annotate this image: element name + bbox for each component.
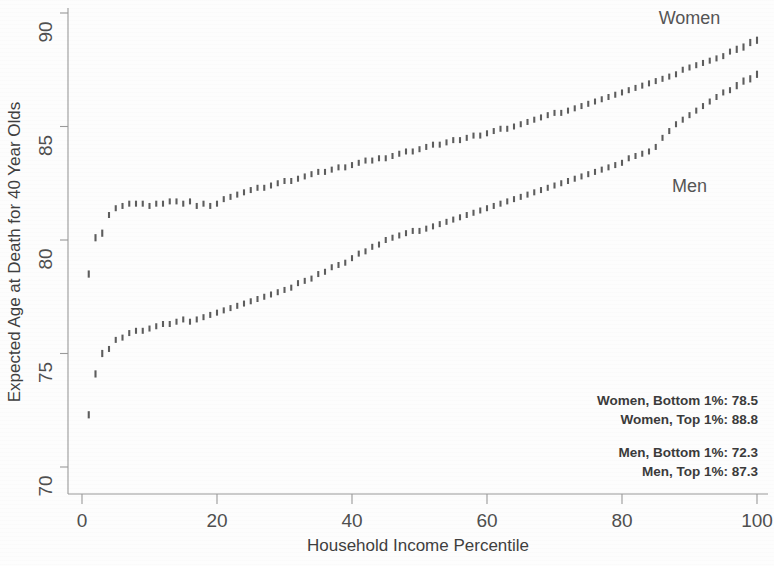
x-axis-ticks: 020406080100: [77, 494, 773, 531]
x-tick-label-100: 100: [741, 510, 773, 531]
series-men-marks: [89, 71, 757, 419]
series-label-women: Women: [659, 8, 721, 28]
chart-canvas: 7075808590 020406080100 Women Men Househ…: [0, 0, 774, 566]
series-women-marks: [89, 37, 757, 278]
annotation-men-bottom: Men, Bottom 1%: 72.3: [618, 445, 758, 460]
x-tick-label-0: 0: [77, 510, 88, 531]
y-axis-ticks: 7075808590: [35, 13, 68, 497]
annotation-block: Women, Bottom 1%: 78.5 Women, Top 1%: 88…: [597, 393, 759, 479]
y-tick-label-90: 90: [35, 21, 56, 42]
annotation-women-top: Women, Top 1%: 88.8: [620, 412, 758, 427]
y-axis-title: Expected Age at Death for 40 Year Olds: [5, 102, 24, 403]
x-tick-label-80: 80: [611, 510, 632, 531]
x-tick-label-20: 20: [206, 510, 227, 531]
y-tick-label-75: 75: [35, 362, 56, 383]
y-tick-label-70: 70: [35, 475, 56, 496]
y-tick-label-80: 80: [35, 248, 56, 269]
life-expectancy-by-income-chart: 7075808590 020406080100 Women Men Househ…: [0, 0, 774, 566]
x-axis-title: Household Income Percentile: [307, 536, 529, 555]
annotation-men-top: Men, Top 1%: 87.3: [642, 464, 759, 479]
series-label-men: Men: [672, 176, 707, 196]
y-tick-label-85: 85: [35, 135, 56, 156]
x-tick-label-60: 60: [476, 510, 497, 531]
annotation-women-bottom: Women, Bottom 1%: 78.5: [597, 393, 759, 408]
x-tick-label-40: 40: [341, 510, 362, 531]
